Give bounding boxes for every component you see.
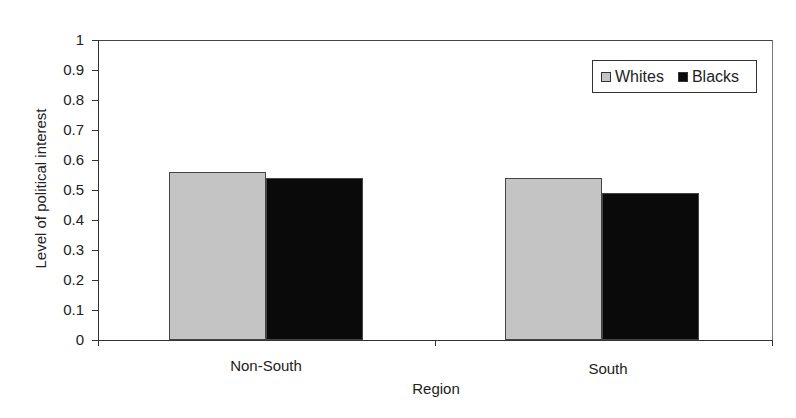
bar-blacks-non-south bbox=[266, 178, 363, 340]
y-tick bbox=[92, 130, 98, 131]
legend: Whites Blacks bbox=[592, 60, 757, 93]
y-tick-label: 1 bbox=[44, 32, 84, 48]
bar-whites-non-south bbox=[169, 172, 266, 340]
legend-swatch-whites bbox=[601, 72, 611, 82]
y-tick-label: 0.2 bbox=[44, 272, 84, 288]
y-tick bbox=[92, 340, 98, 341]
y-tick-label: 0.1 bbox=[44, 302, 84, 318]
y-tick-label: 0.7 bbox=[44, 122, 84, 138]
y-tick-label: 0.6 bbox=[44, 152, 84, 168]
y-tick bbox=[92, 310, 98, 311]
legend-swatch-blacks bbox=[678, 72, 688, 82]
bar-whites-south bbox=[505, 178, 602, 340]
y-tick bbox=[92, 40, 98, 41]
y-tick-label: 0.4 bbox=[44, 212, 84, 228]
x-tick bbox=[435, 340, 436, 346]
category-label: Non-South bbox=[186, 357, 346, 374]
y-tick-label: 0.3 bbox=[44, 242, 84, 258]
y-tick bbox=[92, 220, 98, 221]
category-label: South bbox=[528, 360, 688, 377]
x-axis-title: Region bbox=[356, 380, 516, 397]
y-tick bbox=[92, 190, 98, 191]
y-axis-title: Level of political interest bbox=[32, 89, 49, 289]
y-tick-label: 0.8 bbox=[44, 92, 84, 108]
y-tick bbox=[92, 160, 98, 161]
legend-label-whites: Whites bbox=[615, 68, 664, 86]
y-tick bbox=[92, 250, 98, 251]
y-tick bbox=[92, 100, 98, 101]
legend-label-blacks: Blacks bbox=[692, 68, 739, 86]
x-axis bbox=[92, 340, 773, 341]
y-tick bbox=[92, 280, 98, 281]
y-axis bbox=[98, 40, 99, 346]
y-tick-label: 0.5 bbox=[44, 182, 84, 198]
y-tick bbox=[92, 70, 98, 71]
y-tick-label: 0 bbox=[44, 332, 84, 348]
x-tick bbox=[772, 340, 773, 346]
bar-blacks-south bbox=[602, 193, 699, 340]
y-tick-label: 0.9 bbox=[44, 62, 84, 78]
